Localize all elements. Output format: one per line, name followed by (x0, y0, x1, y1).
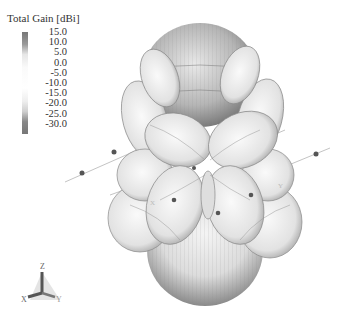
axis-triad[interactable]: Z X Y (21, 262, 62, 304)
triad-y-label: Y (56, 295, 62, 304)
triad-x-label: X (21, 295, 27, 304)
plot-x-label: X (150, 199, 155, 207)
plot-y-label: Y (278, 182, 283, 190)
radiation-pattern-plot[interactable]: X Y Z X Y (0, 0, 347, 322)
triad-z-label: Z (40, 262, 45, 271)
